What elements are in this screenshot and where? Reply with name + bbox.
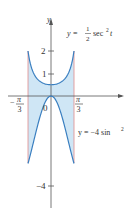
pos-three-label: 3 (77, 105, 81, 114)
chart-canvas: y 2 1 −4 0 − π 3 π 3 y = 1 2 sec 2 t y =… (0, 0, 127, 208)
curve1-label-prefix: y = (66, 29, 78, 38)
x-axis-arrow-icon (118, 94, 124, 98)
curve1-label-num: 1 (86, 25, 90, 33)
curve2-label-exp: 2 (121, 126, 124, 132)
curve1-label-func: sec (93, 29, 104, 38)
neg-three-label: 3 (18, 105, 22, 114)
curve1-label-exp: 2 (106, 27, 109, 33)
y-tick-label-neg4: −4 (36, 181, 46, 191)
origin-label: 0 (43, 103, 48, 113)
curve2-label: y = −4 sin (78, 128, 110, 137)
y-tick-label-1: 1 (42, 69, 47, 79)
curve1-label-var: t (110, 29, 113, 38)
y-tick-label-2: 2 (41, 46, 46, 56)
neg-pi-minus: − (10, 98, 15, 107)
y-axis-label: y (46, 15, 51, 24)
curve1-label-den: 2 (86, 35, 90, 43)
